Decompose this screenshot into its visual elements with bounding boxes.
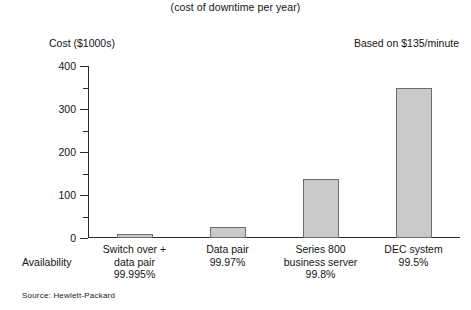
y-axis-line (88, 66, 89, 238)
y-tick-minor (83, 88, 88, 89)
y-tick-minor (83, 174, 88, 175)
y-tick-label: 400 (58, 60, 76, 72)
bar (396, 88, 432, 239)
category-availability-pct: 99.97% (181, 256, 274, 269)
category-label-line: data pair (88, 256, 181, 269)
y-tick-major (80, 66, 88, 67)
category-availability-pct: 99.5% (367, 256, 460, 269)
category-availability-pct: 99.8% (274, 268, 367, 281)
source-note: Source: Hewlett-Packard (22, 291, 115, 300)
bar (303, 179, 339, 238)
plot-area: 0100200300400 (88, 66, 460, 238)
y-tick-label: 200 (58, 146, 76, 158)
y-tick-major (80, 238, 88, 239)
chart-annotation: Based on $135/minute (354, 37, 459, 49)
category-label: Data pair99.97% (181, 243, 274, 268)
y-tick-minor (83, 217, 88, 218)
bar (117, 234, 153, 238)
y-tick-label: 300 (58, 103, 76, 115)
y-axis-title: Cost ($1000s) (49, 37, 115, 49)
category-availability-pct: 99.995% (88, 268, 181, 281)
chart-container: (cost of downtime per year) Cost ($1000s… (0, 0, 471, 310)
y-tick-label: 0 (70, 232, 76, 244)
x-axis-title: Availability (22, 256, 71, 268)
y-tick-label: 100 (58, 189, 76, 201)
y-tick-major (80, 109, 88, 110)
category-label-line: business server (274, 256, 367, 269)
category-label-line: Series 800 (274, 243, 367, 256)
category-label-line: Data pair (181, 243, 274, 256)
y-tick-major (80, 195, 88, 196)
x-axis-category-labels: Switch over +data pair99.995%Data pair99… (88, 243, 460, 289)
y-tick-minor (83, 131, 88, 132)
category-label: DEC system99.5% (367, 243, 460, 268)
category-label-line: DEC system (367, 243, 460, 256)
category-label: Series 800business server99.8% (274, 243, 367, 281)
chart-subtitle: (cost of downtime per year) (0, 1, 471, 13)
category-label-line: Switch over + (88, 243, 181, 256)
bar (210, 227, 246, 238)
category-label: Switch over +data pair99.995% (88, 243, 181, 281)
y-tick-major (80, 152, 88, 153)
